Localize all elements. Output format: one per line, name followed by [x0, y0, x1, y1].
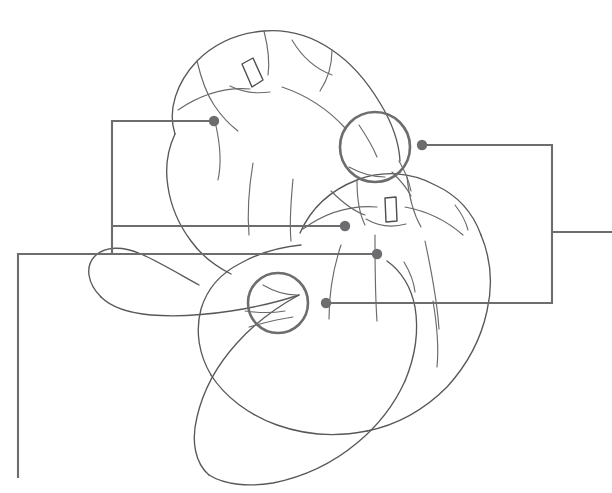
gourd-body — [89, 248, 417, 485]
pumpkin-lower-stalk — [385, 197, 397, 222]
detail-scratch-1 — [359, 125, 377, 157]
pumpkin-upper-rib-center — [264, 31, 269, 75]
callout-5-dot[interactable] — [321, 298, 331, 308]
pumpkin-upper-left — [167, 31, 400, 274]
callout-2-dot[interactable] — [340, 221, 350, 231]
callout-group — [18, 116, 612, 478]
callout-3-leader — [18, 254, 377, 478]
callout-1-leader — [112, 121, 214, 254]
callout-4-leader — [422, 145, 612, 232]
pumpkin-lower-rib-left — [357, 181, 365, 225]
callout-1[interactable] — [112, 116, 219, 254]
pumpkin-lower-inner-fold-c — [329, 245, 341, 319]
gourd-tail-left — [194, 295, 299, 475]
callout-4[interactable] — [417, 140, 612, 232]
highlight-circle-lower[interactable] — [248, 273, 308, 333]
pumpkin-lower-inner-fold-a — [375, 235, 377, 321]
pumpkin-upper-crease-right — [282, 87, 346, 129]
detail-scratches — [349, 125, 468, 292]
pumpkin-upper-rib-right-a — [292, 40, 332, 75]
gourd-crease-b — [245, 311, 285, 313]
pumpkin-lower-inner-fold-b — [425, 241, 439, 329]
pumpkin-upper-inner-fold-a — [216, 126, 220, 180]
callout-2[interactable] — [112, 221, 350, 231]
callout-5-leader — [326, 232, 552, 303]
highlight-circle-upper[interactable] — [340, 112, 410, 182]
pumpkin-lower-outline-right — [367, 235, 490, 431]
pumpkin-upper-inner-fold-b — [248, 163, 253, 235]
callout-1-dot[interactable] — [209, 116, 219, 126]
callout-3[interactable] — [18, 249, 382, 478]
gourd-crease-a — [263, 285, 297, 295]
callout-5[interactable] — [321, 232, 552, 308]
pumpkin-upper-stalk — [242, 58, 263, 87]
pumpkin-upper-crease-left — [178, 89, 250, 110]
pumpkin-lower-outline-bottom — [211, 375, 367, 434]
callout-4-dot[interactable] — [417, 140, 427, 150]
gourd-lobe-upper-edge — [89, 248, 199, 297]
diagram-canvas — [0, 0, 612, 493]
callout-3-dot[interactable] — [372, 249, 382, 259]
pumpkin-upper-inner-fold-c — [290, 179, 293, 241]
pumpkin-annotation-diagram — [0, 0, 612, 493]
pumpkin-upper-outline-top — [172, 31, 400, 161]
